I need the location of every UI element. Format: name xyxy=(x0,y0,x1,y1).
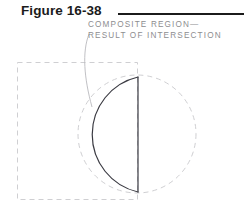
figure-page: Figure 16-38 COMPOSITE REGION— RESULT OF… xyxy=(0,0,248,217)
composite-region-arc xyxy=(92,77,138,192)
construction-rectangle xyxy=(18,63,138,200)
technical-drawing xyxy=(0,0,248,217)
drawing-canvas xyxy=(0,0,248,217)
leader-line xyxy=(85,34,92,107)
